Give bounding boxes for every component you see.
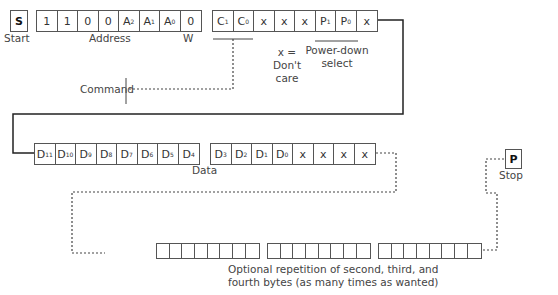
bit-cell: P0 [336,11,357,31]
empty-bit-cell [220,244,233,258]
power-down-select-note: Power-down select [304,44,370,70]
bit-cell: x [275,11,296,31]
address-byte: 1100A2A1A00 [36,10,202,32]
empty-bit-cell [233,244,246,258]
bit-cell: C0 [234,11,255,31]
bit-cell: D0 [273,144,294,164]
bit-cell: D2 [232,144,253,164]
power-down-line1: Power-down [304,44,370,57]
empty-bit-cell [331,244,344,258]
bit-cell: 0 [181,11,202,31]
bit-cell: 0 [99,11,120,31]
command-byte: C1C0xxxP1P0x [212,10,378,32]
stop-condition-box: P [505,149,522,169]
bit-cell: D11 [35,144,56,164]
empty-bit-cell [293,244,306,258]
repeated-byte [378,243,482,259]
bit-cell: A1 [140,11,161,31]
write-bit-label: W [183,32,193,44]
start-label: Start [4,32,30,44]
start-condition-box: S [10,10,28,32]
empty-bit-cell [195,244,208,258]
repetition-line2: fourth bytes (as many times as wanted) [228,276,438,289]
bit-cell: C1 [213,11,234,31]
bit-cell: x [293,144,314,164]
empty-bit-cell [455,244,468,258]
address-label: Address [89,32,131,44]
bit-cell: x [355,144,376,164]
bit-cell: D5 [158,144,179,164]
empty-bit-cell [379,244,392,258]
data-byte-low: D3D2D1D0xxxx [210,143,376,165]
bit-cell: 1 [58,11,79,31]
bit-cell: D1 [252,144,273,164]
bit-cell: 1 [37,11,58,31]
bit-cell: x [314,144,335,164]
bit-cell: D6 [138,144,159,164]
empty-bit-cell [306,244,319,258]
bit-cell: 0 [78,11,99,31]
bit-cell: A2 [119,11,140,31]
empty-bit-cell [319,244,332,258]
data-label: Data [192,164,217,176]
bit-cell: D4 [179,144,200,164]
power-down-line2: select [304,57,370,70]
bit-cell: D9 [76,144,97,164]
bit-cell: x [254,11,275,31]
dont-care-line2: Don't [272,59,302,72]
data-byte-high: D11D10D9D8D7D6D5D4 [34,143,200,165]
empty-bit-cell [182,244,195,258]
repetition-note: Optional repetition of second, third, an… [228,263,438,289]
dont-care-line3: care [272,72,302,85]
bit-cell: x [357,11,378,31]
empty-bit-cell [268,244,281,258]
command-label: Command [80,83,134,95]
bit-cell: A0 [160,11,181,31]
dont-care-line1: x = [272,46,302,59]
empty-bit-cell [468,244,481,258]
bit-cell: x [295,11,316,31]
empty-bit-cell [157,244,170,258]
repetition-line1: Optional repetition of second, third, an… [228,263,438,276]
bit-cell: D3 [211,144,232,164]
empty-bit-cell [246,244,259,258]
empty-bit-cell [281,244,294,258]
empty-bit-cell [357,244,370,258]
repeated-byte [156,243,260,259]
bit-cell: D10 [56,144,77,164]
empty-bit-cell [417,244,430,258]
bit-cell: D8 [97,144,118,164]
stop-label: Stop [499,169,523,181]
empty-bit-cell [392,244,405,258]
bit-cell: P1 [316,11,337,31]
empty-bit-cell [404,244,417,258]
repeated-byte [267,243,371,259]
dont-care-note: x = Don't care [272,46,302,85]
empty-bit-cell [344,244,357,258]
bit-cell: x [334,144,355,164]
empty-bit-cell [430,244,443,258]
empty-bit-cell [208,244,221,258]
bit-cell: D7 [117,144,138,164]
empty-bit-cell [170,244,183,258]
empty-bit-cell [442,244,455,258]
